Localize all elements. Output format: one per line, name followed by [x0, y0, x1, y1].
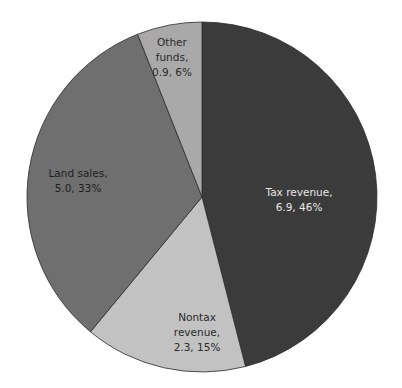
label-line: Other [157, 36, 187, 48]
label-line: Land sales, [48, 167, 107, 179]
label-line: 2.3, 15% [174, 341, 221, 353]
label-line: revenue, [174, 326, 220, 338]
label-line: 5.0, 33% [55, 182, 102, 194]
pie-chart: Tax revenue, 6.9, 46% Nontax revenue, 2.… [0, 0, 402, 388]
label-nontax-revenue: Nontax revenue, 2.3, 15% [174, 311, 221, 353]
label-line: 6.9, 46% [276, 201, 323, 213]
label-line: 0.9, 6% [152, 66, 192, 78]
label-other-funds: Other funds, 0.9, 6% [152, 36, 192, 78]
label-line: Nontax [178, 311, 216, 323]
label-line: Tax revenue, [265, 186, 333, 198]
label-line: funds, [156, 51, 188, 63]
